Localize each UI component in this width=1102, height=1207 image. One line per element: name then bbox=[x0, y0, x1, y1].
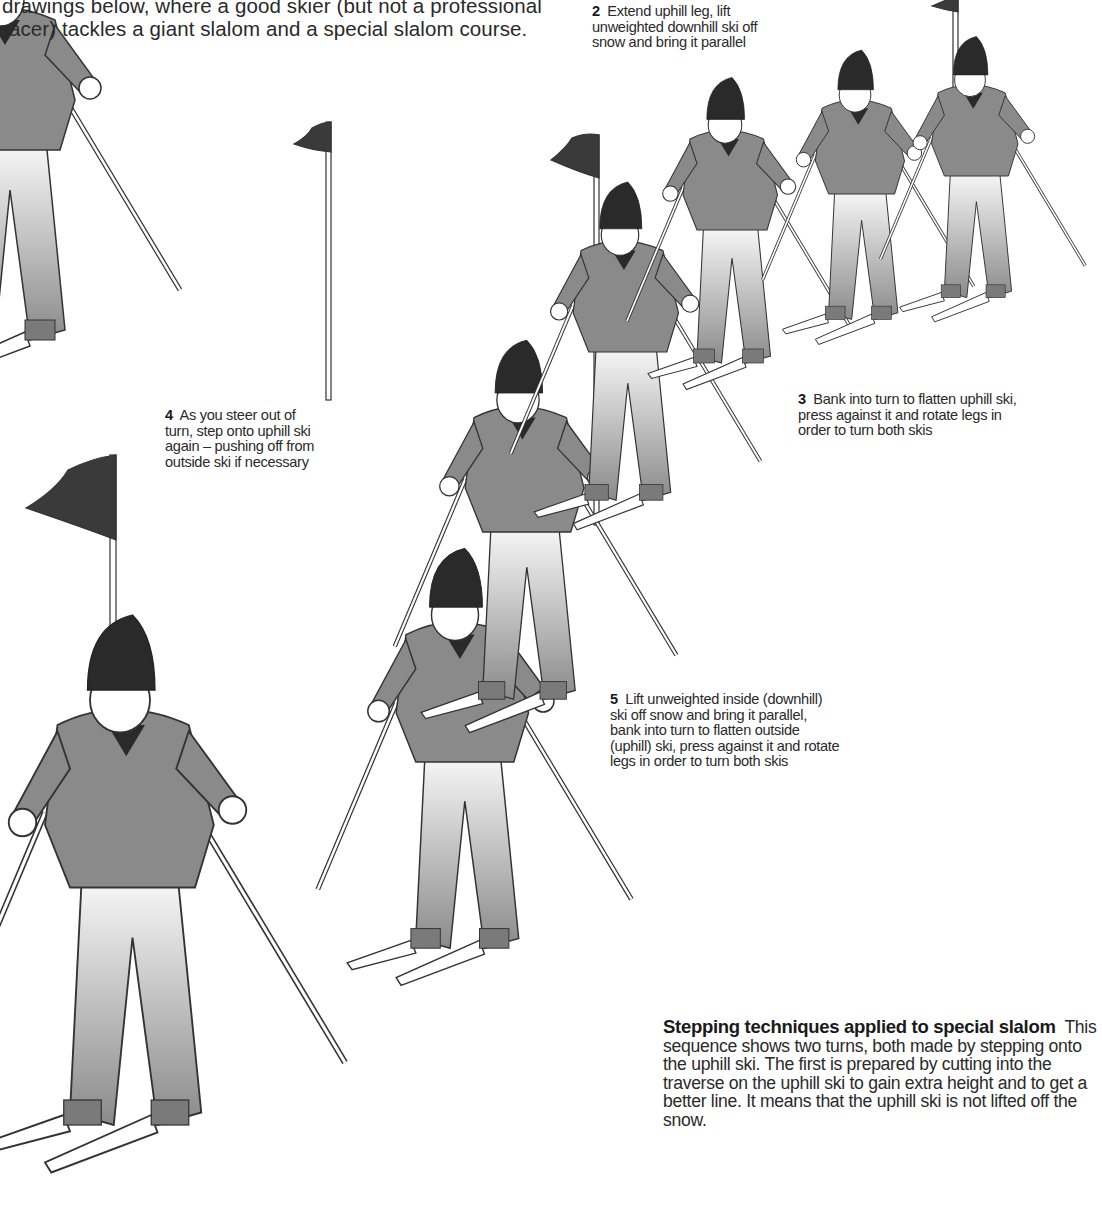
caption-step-4: 4 As you steer out of turn, step onto up… bbox=[165, 408, 315, 470]
caption-step-3: 3 Bank into turn to flatten uphill ski, … bbox=[798, 392, 1018, 439]
skier-figure-icon bbox=[0, 0, 180, 378]
caption-text: Bank into turn to flatten uphill ski, pr… bbox=[798, 391, 1016, 438]
caption-number: 2 bbox=[592, 3, 600, 19]
intro-paragraph: drawings below, where a good skier (but … bbox=[2, 0, 542, 40]
caption-text: Lift unweighted inside (downhill) ski of… bbox=[610, 691, 839, 769]
caption-number: 4 bbox=[165, 407, 173, 423]
summary-block: Stepping techniques applied to special s… bbox=[663, 1018, 1102, 1130]
caption-number: 5 bbox=[610, 691, 618, 707]
caption-step-5: 5 Lift unweighted inside (downhill) ski … bbox=[610, 692, 840, 770]
caption-number: 3 bbox=[798, 391, 806, 407]
caption-step-2: 2 Extend uphill leg, lift unweighted dow… bbox=[592, 4, 792, 51]
caption-text: Extend uphill leg, lift unweighted downh… bbox=[592, 3, 757, 50]
summary-heading: Stepping techniques applied to special s… bbox=[663, 1016, 1056, 1037]
caption-text: As you steer out of turn, step onto uphi… bbox=[165, 407, 314, 470]
